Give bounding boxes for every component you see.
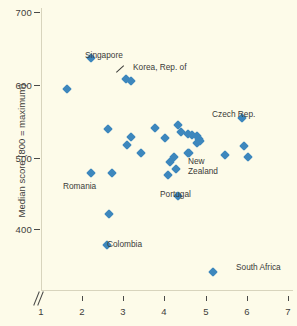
label-south-africa: South Africa [236, 263, 281, 273]
label-korea: Korea, Rep. of [133, 63, 187, 73]
data-points-layer [0, 0, 297, 326]
data-point [171, 164, 181, 174]
data-point [243, 152, 253, 162]
data-point [136, 148, 146, 158]
data-point [220, 150, 230, 160]
data-point [107, 168, 117, 178]
label-new-zealand-line2: Zealand [188, 167, 218, 177]
data-point [86, 168, 96, 178]
label-colombia: Colombia [107, 240, 142, 250]
label-portugal: Portugal [160, 190, 191, 200]
label-czech-rep: Czech Rep. [212, 110, 255, 120]
data-point [104, 209, 114, 219]
label-singapore: Singapore [85, 51, 123, 61]
scatter-chart: Median score (800 = maximum) 700 600 500… [0, 0, 297, 326]
data-point [160, 133, 170, 143]
data-point [163, 171, 173, 181]
data-point [208, 267, 218, 277]
data-point [103, 124, 113, 134]
data-point [62, 84, 72, 94]
data-point [239, 141, 249, 151]
data-point [150, 124, 160, 134]
label-romania: Romania [63, 182, 96, 192]
